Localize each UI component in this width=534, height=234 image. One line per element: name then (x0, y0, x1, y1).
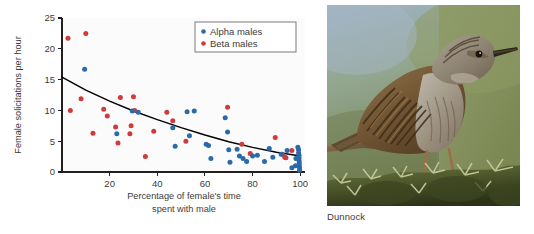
x-tick-label-60: 60 (200, 178, 211, 189)
data-point-beta-19 (225, 105, 230, 110)
data-point-alpha-5 (173, 144, 178, 149)
data-point-alpha-37 (297, 168, 302, 173)
figure-container: 0510152025 20406080100 Female solicitati… (0, 0, 534, 234)
dunnock-photo-illustration (327, 5, 520, 206)
bird-photo-frame (327, 5, 520, 206)
data-point-beta-1 (68, 108, 73, 113)
y-tick-label-5: 5 (50, 136, 55, 147)
data-point-beta-0 (65, 36, 70, 41)
data-point-alpha-21 (255, 153, 260, 158)
data-point-beta-15 (151, 129, 156, 134)
x-tick-label-80: 80 (247, 178, 258, 189)
data-point-beta-14 (143, 154, 148, 159)
y-axis-title: Female solicitations per hour (13, 36, 23, 153)
data-point-alpha-14 (226, 147, 231, 152)
data-point-alpha-4 (170, 125, 175, 130)
data-point-alpha-13 (225, 129, 230, 134)
data-point-beta-6 (105, 113, 110, 118)
x-tick-label-100: 100 (292, 178, 308, 189)
x-axis-title-line2: spent with male (152, 204, 216, 214)
data-point-beta-3 (83, 31, 88, 36)
legend-label-alpha: Alpha males (210, 26, 263, 37)
data-point-beta-17 (170, 118, 175, 123)
data-point-alpha-25 (279, 152, 284, 157)
bird-eye-highlight (479, 52, 481, 54)
y-tick-label-10: 10 (44, 105, 55, 116)
x-axis-title-line1: Percentage of female's time (127, 191, 241, 201)
data-point-alpha-11 (208, 156, 213, 161)
data-point-beta-7 (113, 125, 118, 130)
scatter-plot-panel: 0510152025 20406080100 Female solicitati… (0, 0, 322, 234)
data-point-alpha-0 (82, 67, 87, 72)
data-point-alpha-1 (114, 131, 119, 136)
y-axis-ticks (58, 18, 62, 172)
data-point-beta-26 (289, 148, 294, 153)
data-point-alpha-8 (192, 109, 197, 114)
data-point-alpha-26 (285, 148, 290, 153)
scatter-plot-svg: 0510152025 20406080100 Female solicitati… (0, 0, 322, 234)
data-point-beta-22 (273, 135, 278, 140)
data-point-alpha-7 (187, 133, 192, 138)
bird-eye (476, 51, 483, 58)
y-tick-label-15: 15 (44, 74, 55, 85)
data-point-alpha-12 (223, 115, 228, 120)
data-point-alpha-15 (227, 160, 232, 165)
y-axis-tick-labels: 0510152025 (44, 12, 55, 177)
data-point-beta-8 (115, 141, 120, 146)
x-axis-tick-labels: 20406080100 (104, 178, 308, 189)
photo-caption: Dunnock (327, 211, 365, 222)
data-point-beta-9 (118, 95, 123, 100)
data-point-beta-18 (183, 139, 188, 144)
data-point-alpha-6 (185, 109, 190, 114)
data-point-alpha-39 (293, 163, 298, 168)
x-axis-ticks (110, 172, 301, 176)
data-point-alpha-19 (244, 159, 249, 164)
data-point-beta-5 (101, 107, 106, 112)
data-point-beta-16 (164, 110, 169, 115)
legend-swatch-beta-icon (201, 41, 206, 46)
legend-swatch-alpha-icon (201, 29, 206, 34)
data-point-beta-12 (131, 94, 136, 99)
data-point-alpha-38 (293, 156, 298, 161)
data-point-beta-2 (79, 96, 84, 101)
data-point-alpha-2 (130, 109, 135, 114)
bird-photo-panel (327, 5, 520, 206)
data-point-alpha-10 (206, 143, 211, 148)
data-point-beta-11 (129, 123, 134, 128)
data-point-alpha-16 (235, 147, 240, 152)
data-point-beta-20 (239, 142, 244, 147)
y-tick-label-20: 20 (44, 43, 55, 54)
data-point-beta-10 (127, 131, 132, 136)
data-point-beta-4 (90, 131, 95, 136)
chart-legend: Alpha males Beta males (195, 22, 296, 52)
legend-label-beta: Beta males (210, 38, 258, 49)
data-point-alpha-22 (262, 159, 267, 164)
data-point-alpha-3 (136, 110, 141, 115)
data-point-alpha-20 (250, 153, 255, 158)
y-tick-label-25: 25 (44, 12, 55, 23)
data-point-beta-25 (283, 155, 288, 160)
data-point-alpha-23 (267, 146, 272, 151)
x-tick-label-40: 40 (152, 178, 163, 189)
data-point-alpha-24 (270, 155, 275, 160)
y-tick-label-0: 0 (50, 166, 55, 177)
x-tick-label-20: 20 (104, 178, 115, 189)
